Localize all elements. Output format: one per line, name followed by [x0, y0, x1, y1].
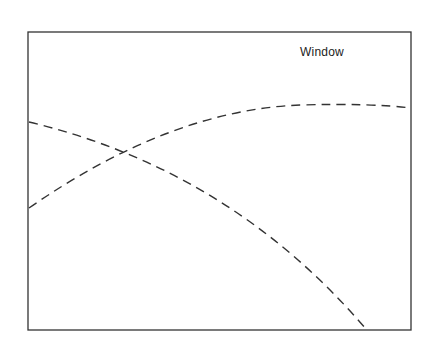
window-frame: [28, 32, 411, 330]
window-label: Window: [300, 45, 344, 59]
falling-dashed-curve: [29, 122, 366, 329]
diagram-canvas: [0, 0, 430, 344]
rising-dashed-curve: [29, 104, 411, 208]
